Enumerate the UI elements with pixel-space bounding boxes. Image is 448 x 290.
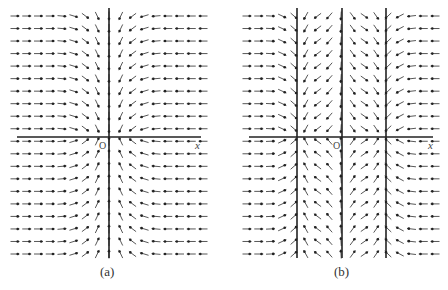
caption-a: (a)	[100, 264, 114, 280]
origin-label-b: O	[333, 140, 340, 151]
x-axis-label-b: x	[428, 139, 433, 151]
origin-label-a: O	[99, 140, 106, 151]
vector-field-figure	[0, 0, 448, 290]
caption-b: (b)	[334, 264, 349, 280]
x-axis-label-a: x	[195, 139, 200, 151]
